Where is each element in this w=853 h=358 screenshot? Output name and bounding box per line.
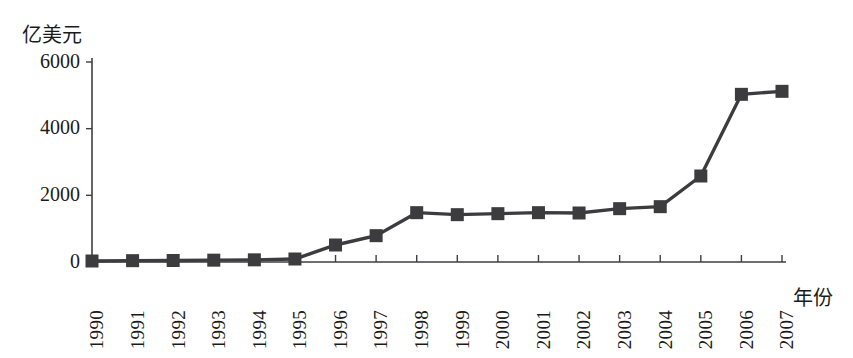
- data-point-marker: [126, 254, 139, 267]
- y-tick-label: 4000: [40, 116, 80, 138]
- x-tick-label: 1994: [249, 310, 270, 349]
- data-point-marker: [532, 206, 545, 219]
- data-point-marker: [735, 88, 748, 101]
- y-tick-label: 2000: [40, 183, 80, 205]
- x-tick-label: 1990: [86, 310, 107, 349]
- y-axis-ticks: [86, 62, 92, 195]
- x-tick-label: 1999: [452, 310, 473, 349]
- x-tick-label: 2003: [614, 310, 635, 349]
- data-point-marker: [451, 208, 464, 221]
- x-tick-label: 2001: [533, 310, 554, 349]
- data-point-marker: [613, 202, 626, 215]
- data-point-marker: [694, 170, 707, 183]
- data-point-marker: [654, 200, 667, 213]
- data-point-marker: [573, 207, 586, 220]
- x-tick-label: 1998: [411, 310, 432, 349]
- data-point-marker: [370, 229, 383, 242]
- x-tick-label: 1997: [370, 310, 391, 349]
- x-tick-label: 1991: [127, 310, 148, 349]
- x-tick-label: 1995: [289, 310, 310, 349]
- y-tick-label: 0: [70, 250, 80, 272]
- line-chart: 亿美元 0200040006000 1990199119921993199419…: [0, 0, 853, 358]
- data-point-marker: [248, 253, 261, 266]
- y-axis-tick-labels: 0200040006000: [40, 50, 80, 272]
- data-point-marker: [491, 207, 504, 220]
- y-axis-unit-label: 亿美元: [22, 23, 82, 47]
- x-tick-label: 2006: [736, 310, 757, 349]
- x-tick-label: 2002: [573, 310, 594, 349]
- x-tick-label: 2005: [695, 310, 716, 349]
- chart-page: 亿美元 0200040006000 1990199119921993199419…: [0, 0, 853, 358]
- data-point-marker: [410, 206, 423, 219]
- x-tick-label: 2000: [492, 310, 513, 349]
- x-tick-label: 1993: [208, 310, 229, 349]
- data-point-marker: [288, 253, 301, 266]
- y-tick-label: 6000: [40, 50, 80, 72]
- series-markers: [86, 85, 789, 268]
- data-point-marker: [329, 239, 342, 252]
- x-axis-tick-labels: 1990199119921993199419951996199719981999…: [86, 310, 797, 349]
- x-tick-label: 2007: [776, 310, 797, 349]
- data-point-marker: [207, 254, 220, 267]
- x-tick-label: 2004: [655, 310, 676, 349]
- x-tick-label: 1992: [168, 310, 189, 349]
- series-line: [92, 91, 782, 261]
- x-axis-name-label: 年份: [793, 286, 833, 310]
- x-tick-label: 1996: [330, 310, 351, 349]
- data-point-marker: [86, 255, 99, 268]
- data-point-marker: [776, 85, 789, 98]
- data-point-marker: [167, 254, 180, 267]
